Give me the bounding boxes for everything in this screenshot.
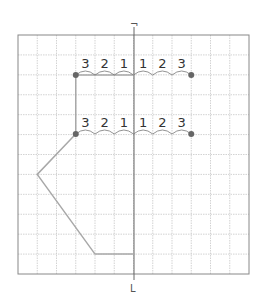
count-label: 1: [139, 115, 147, 130]
hop-arc: [134, 130, 153, 134]
hop-arc: [114, 130, 133, 134]
count-label: 3: [177, 115, 185, 130]
count-label: 1: [120, 115, 128, 130]
axis-top-mark: ¬: [130, 19, 138, 30]
axis-bottom-mark: L: [130, 283, 136, 294]
count-label: 1: [120, 56, 128, 71]
hop-arc: [95, 130, 114, 134]
hop-arc: [153, 130, 172, 134]
half-shape: [37, 75, 134, 254]
count-label: 2: [100, 115, 108, 130]
reflected-point-dot: [188, 131, 194, 137]
count-label: 3: [81, 115, 89, 130]
count-label: 2: [158, 115, 166, 130]
count-label: 3: [177, 56, 185, 71]
symmetry-diagram: 321123321123 ¬ L: [0, 0, 260, 305]
shape-outline: [37, 75, 134, 254]
count-label: 2: [158, 56, 166, 71]
count-label: 2: [100, 56, 108, 71]
hop-arc: [134, 71, 153, 75]
reflected-point-dot: [188, 72, 194, 78]
count-label: 3: [81, 56, 89, 71]
point-dot: [73, 72, 79, 78]
count-label: 1: [139, 56, 147, 71]
point-dot: [73, 131, 79, 137]
hop-arc: [153, 71, 172, 75]
